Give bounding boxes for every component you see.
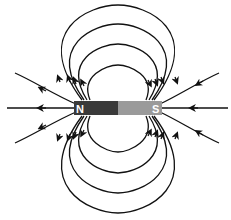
right-open-field-lines [160,73,228,143]
field-line-top-2 [70,24,167,100]
left-open-field-lines [7,73,76,143]
field-line-top-3 [79,44,158,100]
field-line-top-1 [61,5,174,100]
field-line-bottom-1 [61,116,174,213]
north-label: N [76,103,84,115]
field-line-bottom-3 [79,116,158,173]
field-line-top-4 [88,65,148,100]
bar-magnet-field-diagram: N S [0,0,231,220]
field-line-bottom-2 [70,116,167,193]
bottom-field-loops [59,116,177,213]
bar-magnet: N S [74,101,162,115]
field-line-bottom-4 [88,116,148,152]
south-label: S [152,103,159,115]
top-field-loops [59,5,177,100]
